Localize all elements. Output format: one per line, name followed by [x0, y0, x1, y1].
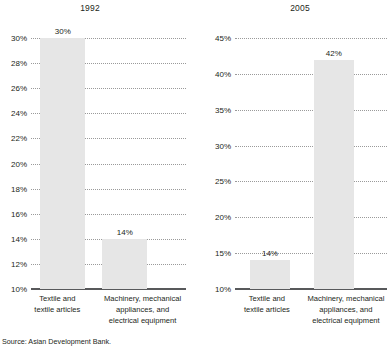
bar: 14%: [102, 239, 147, 289]
category-label: Machinery, mechanicalappliances, andelec…: [93, 293, 192, 326]
chart-panel-1992: 1992 30%28%26%24%22%20%18%16%14%12%10%30…: [0, 0, 196, 330]
category-label-line: Machinery, mechanical: [299, 293, 392, 304]
gridline: [235, 181, 387, 182]
gridline: [235, 110, 387, 111]
y-axis-tick-label: 20%: [11, 159, 27, 168]
bar-value-label: 42%: [314, 49, 354, 58]
plot-area-2005: 45%40%35%30%25%20%15%10%14%42%: [235, 38, 387, 289]
gridline: [235, 74, 387, 75]
y-axis-tick-label: 22%: [11, 134, 27, 143]
bar-value-label: 30%: [40, 27, 85, 36]
y-axis-tick-label: 35%: [215, 105, 231, 114]
y-axis-tick-label: 30%: [11, 34, 27, 43]
figure-two-panel-bar-charts: 1992 30%28%26%24%22%20%18%16%14%12%10%30…: [0, 0, 392, 346]
y-axis-tick-label: 26%: [11, 84, 27, 93]
y-axis-tick-label: 12%: [11, 259, 27, 268]
chart-panel-2005: 2005 45%40%35%30%25%20%15%10%14%42% Text…: [196, 0, 392, 330]
category-label-line: appliances, and: [299, 304, 392, 315]
bar: 30%: [40, 38, 85, 289]
y-axis-tick-label: 18%: [11, 184, 27, 193]
y-axis-tick-label: 25%: [215, 177, 231, 186]
bar: 14%: [250, 260, 290, 289]
category-label: Machinery, mechanicalappliances, andelec…: [299, 293, 392, 326]
category-label-line: Textile and: [235, 293, 299, 304]
category-label-line: textile articles: [25, 304, 90, 315]
gridline: [235, 146, 387, 147]
bar-value-label: 14%: [102, 228, 147, 237]
bar: 42%: [314, 60, 354, 289]
y-axis-tick-label: 28%: [11, 59, 27, 68]
y-axis-tick-label: 40%: [215, 69, 231, 78]
y-axis-tick-label: 10%: [215, 285, 231, 294]
category-label: Textile andtextile articles: [25, 293, 90, 315]
category-label-line: Machinery, mechanical: [93, 293, 192, 304]
y-axis-tick-label: 14%: [11, 234, 27, 243]
chart-title-2005: 2005: [202, 3, 392, 13]
category-label-line: appliances, and: [93, 304, 192, 315]
category-labels-2005: Textile andtextile articlesMachinery, me…: [235, 293, 387, 337]
y-axis-tick-label: 24%: [11, 109, 27, 118]
plot-area-1992: 30%28%26%24%22%20%18%16%14%12%10%30%14%: [31, 38, 186, 289]
chart-title-1992: 1992: [0, 3, 188, 13]
gridline: [235, 217, 387, 218]
y-axis-tick-label: 15%: [215, 249, 231, 258]
source-note: Source: Asian Development Bank.: [2, 337, 111, 346]
gridline: [235, 38, 387, 39]
category-label-line: textile articles: [235, 304, 299, 315]
category-label: Textile andtextile articles: [235, 293, 299, 315]
y-axis-tick-label: 20%: [215, 213, 231, 222]
y-axis-tick-label: 30%: [215, 141, 231, 150]
y-axis-tick-label: 16%: [11, 209, 27, 218]
category-labels-1992: Textile andtextile articlesMachinery, me…: [31, 293, 186, 337]
category-label-line: electrical equipment: [93, 315, 192, 326]
y-axis-tick-label: 45%: [215, 34, 231, 43]
category-label-line: electrical equipment: [299, 315, 392, 326]
bar-value-label: 14%: [250, 249, 290, 258]
category-label-line: Textile and: [25, 293, 90, 304]
